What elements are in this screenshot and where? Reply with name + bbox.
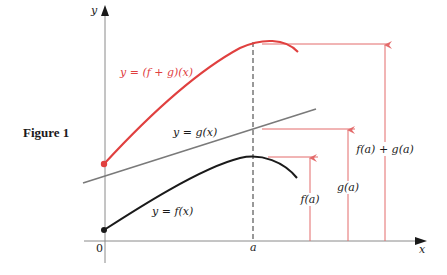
- f-start-dot: [101, 227, 107, 233]
- y-axis-label: y: [90, 4, 98, 17]
- y-axis-arrow-icon: [101, 5, 109, 16]
- figure-title: Figure 1: [23, 125, 69, 140]
- sum-a-label: f(a) + g(a): [355, 143, 414, 156]
- f-a-label: f(a): [299, 193, 319, 206]
- sum-start-dot: [101, 161, 107, 167]
- figure-canvas: Figure 1 y x 0 a y = (f + g)(x) y = g(x)…: [0, 0, 447, 275]
- g-a-label: g(a): [337, 181, 359, 194]
- g-curve: [83, 109, 316, 183]
- a-tick-label: a: [250, 241, 257, 254]
- x-axis-label: x: [419, 243, 426, 256]
- y-axis: [101, 5, 109, 263]
- sum-curve-label: y = (f + g)(x): [119, 66, 193, 79]
- g-curve-label: y = g(x): [172, 126, 217, 139]
- reference-lines: [262, 44, 390, 157]
- f-curve-label: y = f(x): [151, 205, 193, 218]
- origin-label: 0: [96, 242, 103, 255]
